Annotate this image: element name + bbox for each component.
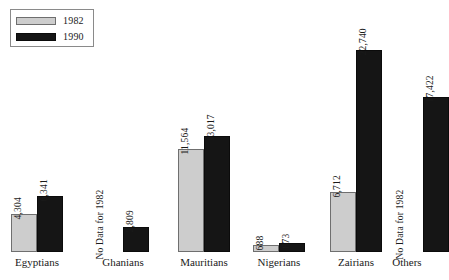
value-label-mauritians-1982: 11,564	[181, 128, 191, 155]
bars-zairians: 6,712 22,740	[330, 0, 382, 252]
bar-egyptians-1990	[37, 196, 63, 252]
value-label-nigerians-1990: 873	[282, 234, 292, 249]
bar-mauritians-1982	[178, 149, 204, 252]
bar-group-nigerians: 688 873	[253, 0, 305, 252]
value-label-nigerians-1982: 688	[256, 236, 266, 251]
value-label-mauritians-1990: 13,017	[207, 114, 217, 141]
bar-group-ghanians: No Data for 1982 2,809	[97, 0, 149, 252]
plot-area: 4,304 6,341 Egyptians No Data for 1982 2…	[0, 0, 441, 252]
category-label-others: Others	[377, 256, 437, 268]
bar-group-others: No Data for 1982 17,422	[397, 0, 449, 252]
bar-others-1990	[423, 97, 449, 252]
value-label-ghanians-1990: 2,809	[126, 210, 136, 232]
bar-egyptians-1982	[11, 214, 37, 252]
bars-nigerians: 688 873	[253, 0, 305, 252]
no-data-note-others-1982: No Data for 1982	[396, 190, 406, 260]
category-label-ghanians: Ghanians	[77, 256, 169, 268]
bars-mauritians: 11,564 13,017	[178, 0, 230, 252]
bars-ghanians: No Data for 1982 2,809	[97, 0, 149, 252]
bar-mauritians-1990	[204, 136, 230, 252]
bar-group-mauritians: 11,564 13,017	[178, 0, 230, 252]
bar-zairians-1990	[356, 50, 382, 252]
bars-others: No Data for 1982 17,422	[397, 0, 449, 252]
value-label-egyptians-1982: 4,304	[14, 197, 24, 219]
value-label-zairians-1982: 6,712	[333, 175, 343, 197]
bar-group-egyptians: 4,304 6,341	[11, 0, 63, 252]
bars-egyptians: 4,304 6,341	[11, 0, 63, 252]
bar-zairians-1982	[330, 192, 356, 252]
value-label-others-1990: 17,422	[426, 75, 436, 102]
value-label-egyptians-1990: 6,341	[40, 179, 50, 201]
bar-group-zairians: 6,712 22,740	[330, 0, 382, 252]
value-label-zairians-1990: 22,740	[359, 28, 369, 55]
no-data-note-ghanians-1982: No Data for 1982	[96, 190, 106, 260]
category-label-egyptians: Egyptians	[0, 256, 83, 268]
